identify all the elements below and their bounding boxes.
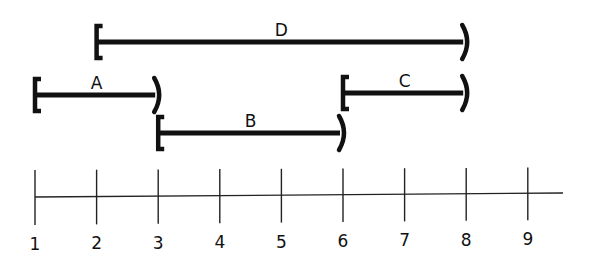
tick-label: 5 — [276, 232, 287, 252]
intervals: DACB — [35, 20, 467, 150]
tick-label: 9 — [522, 229, 533, 249]
tick-label: 7 — [399, 230, 410, 250]
interval-diagram: 123456789 DACB — [0, 0, 589, 263]
interval-label: B — [245, 111, 257, 131]
interval-label: D — [275, 20, 288, 40]
interval-label: C — [399, 71, 411, 91]
tick-label: 3 — [153, 233, 164, 253]
interval-a: A — [35, 73, 159, 112]
tick-label: 6 — [338, 231, 349, 251]
number-line: 123456789 — [30, 168, 563, 254]
axis-tick-labels: 123456789 — [30, 229, 534, 254]
tick-label: 2 — [91, 233, 102, 253]
interval-label: A — [91, 73, 103, 93]
tick-label: 8 — [461, 230, 472, 250]
interval-c: C — [343, 71, 467, 110]
interval-b: B — [158, 111, 344, 150]
interval-d: D — [97, 20, 468, 59]
tick-label: 1 — [30, 234, 41, 254]
axis-line — [35, 193, 563, 197]
tick-label: 4 — [214, 232, 225, 252]
